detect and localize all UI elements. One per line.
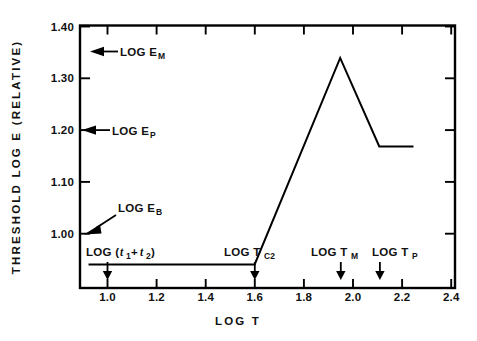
log-t1-t2-arrowhead-icon — [103, 271, 112, 280]
log-e-m-arrowhead-icon — [90, 47, 104, 56]
log-e-p-subscript: P — [150, 130, 156, 140]
log-t-c2-subscript: C2 — [264, 251, 275, 261]
x-tick-label-2-2: 2.2 — [394, 291, 411, 303]
log-t-p-label: LOG T — [372, 246, 409, 258]
log-e-p-arrowhead-icon — [82, 125, 96, 134]
log-e-m-label: LOG E — [120, 46, 157, 58]
annotation-log-e-m: LOG E M — [90, 46, 165, 61]
y-tick-label-1-20: 1.20 — [51, 124, 74, 136]
log-t1-t2-label-t1: t — [120, 246, 124, 258]
annotation-log-t-c2: LOG T C2 — [224, 246, 275, 280]
x-axis-title: LOG T — [215, 315, 261, 327]
threshold-log-e-chart: 1.40 1.30 1.20 1.10 1.00 1.0 1.2 1.4 1.6… — [0, 0, 477, 341]
x-axis-ticks-top — [108, 26, 452, 35]
x-tick-labels: 1.0 1.2 1.4 1.6 1.8 2.0 2.2 2.4 — [99, 291, 460, 303]
log-e-b-arrowhead-icon — [84, 225, 102, 235]
x-tick-label-1-6: 1.6 — [247, 291, 264, 303]
x-tick-label-2-0: 2.0 — [345, 291, 362, 303]
figure-container: 1.40 1.30 1.20 1.10 1.00 1.0 1.2 1.4 1.6… — [0, 0, 477, 341]
log-t1-t2-label-close: ) — [151, 246, 155, 258]
annotation-log-t-p: LOG T P — [372, 246, 418, 280]
annotation-log-e-b: LOG E B — [84, 202, 162, 235]
log-t-c2-arrowhead-icon — [250, 271, 259, 280]
annotation-log-t-m: LOG T M — [311, 246, 358, 280]
log-t-m-label: LOG T — [311, 246, 348, 258]
x-axis-ticks — [108, 279, 452, 288]
x-tick-label-1-0: 1.0 — [99, 291, 116, 303]
x-tick-label-1-2: 1.2 — [148, 291, 165, 303]
log-t-c2-label: LOG T — [224, 246, 261, 258]
log-e-b-label: LOG E — [118, 202, 155, 214]
log-t1-t2-label-t2: t — [140, 246, 144, 258]
y-axis-title: THRESHOLD LOG E (RELATIVE) — [10, 40, 22, 275]
y-tick-label-1-40: 1.40 — [51, 21, 74, 33]
log-e-m-subscript: M — [158, 51, 165, 61]
log-t-m-arrowhead-icon — [336, 271, 345, 280]
log-e-p-label: LOG E — [112, 125, 149, 137]
log-t-p-arrowhead-icon — [375, 271, 384, 280]
y-tick-label-1-10: 1.10 — [51, 176, 74, 188]
log-t1-t2-label-open: LOG ( — [86, 246, 119, 258]
y-tick-labels: 1.40 1.30 1.20 1.10 1.00 — [51, 21, 74, 240]
log-t1-t2-label-plus: + — [131, 246, 138, 258]
annotation-log-e-p: LOG E P — [82, 125, 156, 140]
log-t-p-subscript: P — [412, 251, 418, 261]
log-e-b-subscript: B — [156, 207, 162, 217]
log-t-m-subscript: M — [351, 251, 358, 261]
x-tick-label-1-4: 1.4 — [197, 291, 214, 303]
y-axis-ticks-right — [445, 27, 455, 234]
annotation-log-t1-t2: LOG ( t 1 + t 2 ) — [86, 246, 155, 280]
threshold-curve — [89, 58, 414, 264]
y-tick-label-1-00: 1.00 — [51, 228, 74, 240]
x-tick-label-2-4: 2.4 — [443, 291, 460, 303]
x-tick-label-1-8: 1.8 — [296, 291, 313, 303]
y-tick-label-1-30: 1.30 — [51, 72, 74, 84]
